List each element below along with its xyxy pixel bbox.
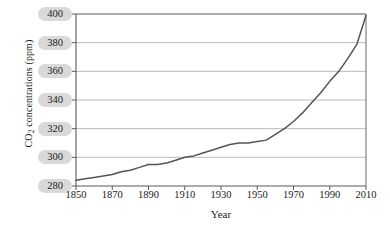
x-axis-title: Year bbox=[76, 208, 366, 220]
plot-area bbox=[0, 0, 390, 236]
co2-concentration-chart: CO2 concentrations (ppm) 280300320340360… bbox=[0, 0, 390, 236]
